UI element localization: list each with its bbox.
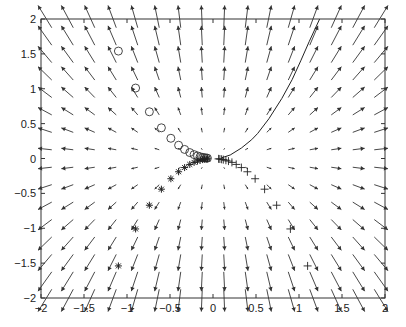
arrow-head-icon (222, 267, 226, 271)
arrow-head-icon (199, 26, 203, 30)
arrow-head-icon (222, 246, 226, 250)
axes-frame (41, 19, 385, 298)
circle-marker (145, 108, 153, 116)
y-tick-label: 0.5 (21, 118, 36, 130)
y-tick-label: −1.5 (14, 257, 36, 269)
plot-canvas: −2−1.5−1−0.500.511.52 −2−1.5−1−0.500.511… (0, 0, 406, 327)
arrow-head-icon (154, 46, 158, 50)
arrow-head-icon (61, 46, 65, 51)
arrow-head-icon (268, 307, 272, 311)
y-tick-label: 0 (30, 153, 36, 165)
arrow-head-icon (153, 26, 157, 30)
arrow-head-icon (337, 205, 342, 209)
arrow-head-icon (85, 205, 90, 209)
arrow-head-icon (199, 287, 203, 291)
x-tick-label: 0.5 (248, 302, 263, 314)
arrow-head-icon (153, 5, 157, 9)
plus-marker (251, 175, 259, 183)
arrow-head-icon (384, 147, 388, 151)
x-tick-label: −2 (35, 302, 48, 314)
arrow-head-icon (38, 166, 42, 170)
x-tick-label: −1.5 (73, 302, 95, 314)
star-markers (115, 155, 211, 269)
circle-marker (157, 124, 165, 132)
y-tick-label: −2 (23, 292, 36, 304)
star-marker (181, 164, 188, 171)
circle-marker (175, 141, 183, 149)
plus-marker (273, 201, 281, 209)
arrow-head-icon (222, 307, 226, 311)
plus-marker (243, 168, 251, 176)
arrow-head-icon (222, 5, 226, 9)
star-marker (115, 262, 122, 269)
arrow-head-icon (245, 26, 249, 30)
arrow-head-icon (199, 267, 203, 271)
figure: −2−1.5−1−0.500.511.52 −2−1.5−1−0.500.511… (0, 0, 406, 327)
x-tick-label: 0 (210, 302, 216, 314)
arrow-head-icon (222, 287, 226, 291)
y-tick-label: 1 (30, 83, 36, 95)
arrow-head-icon (245, 266, 249, 270)
arrow-head-icon (85, 246, 89, 251)
arrow-head-icon (337, 246, 341, 251)
star-marker (146, 202, 153, 209)
arrow-head-icon (361, 266, 365, 271)
arrow-head-icon (177, 67, 181, 71)
arrow-head-icon (268, 287, 272, 291)
arrow-head-icon (268, 266, 272, 270)
arrow-head-icon (245, 46, 249, 50)
plus-markers (215, 155, 312, 270)
axis-ticks (41, 19, 385, 298)
arrow-head-icon (85, 67, 89, 72)
arrow-head-icon (177, 226, 181, 230)
arrow-head-icon (337, 107, 342, 111)
arrow-head-icon (61, 266, 65, 271)
arrow-head-icon (361, 46, 365, 51)
arrow-head-icon (268, 46, 272, 50)
arrow-head-icon (153, 287, 157, 291)
arrow-head-icon (177, 87, 181, 91)
y-tick-label: −0.5 (14, 187, 36, 199)
x-tick-label: 1 (296, 302, 302, 314)
y-tick-label: −1 (23, 222, 36, 234)
x-tick-label: 2 (382, 302, 388, 314)
arrow-head-icon (245, 287, 249, 291)
arrow-head-icon (337, 67, 341, 72)
arrow-head-icon (199, 46, 203, 50)
plus-marker (304, 262, 312, 270)
star-marker (204, 155, 211, 162)
arrow-head-icon (245, 87, 249, 91)
arrow-head-icon (154, 266, 158, 270)
y-tick-label: 2 (30, 13, 36, 25)
x-tick-label: 1.5 (334, 302, 349, 314)
x-tick-label: −0.5 (159, 302, 181, 314)
circle-marker (167, 134, 175, 142)
arrow-head-icon (130, 5, 134, 9)
arrow-head-icon (384, 166, 388, 170)
y-axis-tick-labels: −2−1.5−1−0.500.511.52 (14, 13, 36, 304)
arrow-head-icon (199, 5, 203, 9)
arrow-head-icon (176, 46, 180, 50)
x-axis-tick-labels: −2−1.5−1−0.500.511.52 (35, 302, 388, 314)
arrow-head-icon (291, 5, 295, 9)
arrow-head-icon (177, 246, 181, 250)
star-marker (158, 186, 165, 193)
arrow-head-icon (85, 107, 90, 111)
arrow-head-icon (268, 26, 272, 30)
arrow-head-icon (245, 246, 249, 250)
circle-markers (114, 47, 211, 162)
arrow-head-icon (222, 26, 226, 30)
arrow-head-icon (245, 226, 249, 230)
star-marker (167, 175, 174, 182)
arrow-head-icon (222, 46, 226, 50)
vector-field (38, 5, 388, 311)
arrow-head-icon (200, 226, 204, 230)
arrow-head-icon (222, 87, 226, 91)
x-tick-label: −1 (121, 302, 134, 314)
arrow-head-icon (200, 87, 204, 91)
plus-marker (228, 158, 236, 166)
y-tick-label: 1.5 (21, 48, 36, 60)
circle-marker (114, 47, 122, 55)
arrow-head-icon (176, 266, 180, 270)
star-marker (175, 168, 182, 175)
